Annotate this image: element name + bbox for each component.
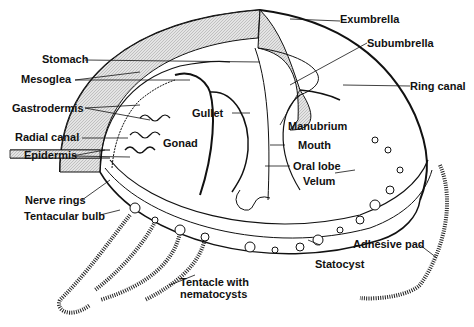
tentacular-bulbs	[130, 137, 403, 253]
label-mesoglea: Mesoglea	[21, 73, 71, 85]
medusa-diagram: Exumbrella Subumbrella Stomach Mesoglea …	[0, 0, 474, 327]
label-manubrium: Manubrium	[288, 120, 347, 132]
label-statocyst: Statocyst	[315, 258, 365, 270]
label-tentacle-line2: nematocysts	[180, 288, 247, 300]
label-tentacular-bulb: Tentacular bulb	[24, 210, 105, 222]
label-adhesive-pad: Adhesive pad	[353, 238, 425, 250]
label-radial-canal: Radial canal	[15, 131, 79, 143]
label-gastrodermis: Gastrodermis	[12, 102, 84, 114]
label-velum: Velum	[303, 175, 335, 187]
label-gonad: Gonad	[163, 137, 198, 149]
label-stomach: Stomach	[42, 53, 88, 65]
label-mouth: Mouth	[298, 139, 331, 151]
label-gullet: Gullet	[192, 107, 223, 119]
label-subumbrella: Subumbrella	[367, 37, 434, 49]
label-epidermis: Epidermis	[24, 149, 77, 161]
label-tentacle-line1: Tentacle with	[180, 276, 249, 288]
label-exumbrella: Exumbrella	[340, 13, 399, 25]
label-ring-canal: Ring canal	[410, 80, 466, 92]
label-oral-lobe: Oral lobe	[293, 160, 341, 172]
label-nerve-rings: Nerve rings	[25, 194, 86, 206]
